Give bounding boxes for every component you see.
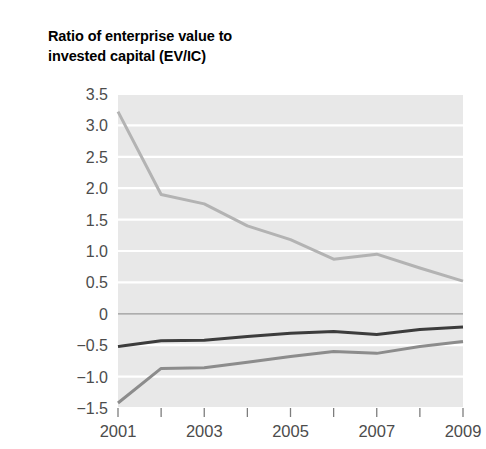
x-axis-tick-label: 2007 — [358, 422, 395, 440]
x-axis-tick-label: 2009 — [445, 422, 482, 440]
y-axis-tick-label: −1.5 — [76, 400, 108, 417]
plot-area: 3.53.02.52.01.51.00.50−0.5−1.0−1.5 20012… — [40, 16, 486, 449]
y-axis-tick-label: 2.0 — [86, 180, 108, 197]
x-axis-tick-label: 2005 — [272, 422, 309, 440]
y-axis-tick-label: −0.5 — [76, 337, 108, 354]
x-axis-tick-label: 2003 — [186, 422, 223, 440]
y-axis-tick-label: 3.0 — [86, 117, 108, 134]
x-axis-tick-label: 2001 — [100, 422, 137, 440]
y-axis-tick-label: 1.0 — [86, 243, 108, 260]
x-axis-tick-labels: 20012003200520072009 — [100, 422, 482, 440]
y-axis-tick-label: 0 — [99, 306, 108, 323]
chart-figure: Ratio of enterprise value to invested ca… — [40, 16, 486, 449]
y-axis-tick-label: 3.5 — [86, 86, 108, 103]
y-axis-tick-label: 2.5 — [86, 149, 108, 166]
plot-svg: 3.53.02.52.01.51.00.50−0.5−1.0−1.5 20012… — [40, 16, 486, 449]
y-axis-tick-labels: 3.53.02.52.01.51.00.50−0.5−1.0−1.5 — [76, 86, 108, 417]
y-axis-tick-label: −1.0 — [76, 369, 108, 386]
y-axis-tick-label: 0.5 — [86, 274, 108, 291]
x-axis-ticks — [118, 408, 463, 417]
y-axis-tick-label: 1.5 — [86, 212, 108, 229]
